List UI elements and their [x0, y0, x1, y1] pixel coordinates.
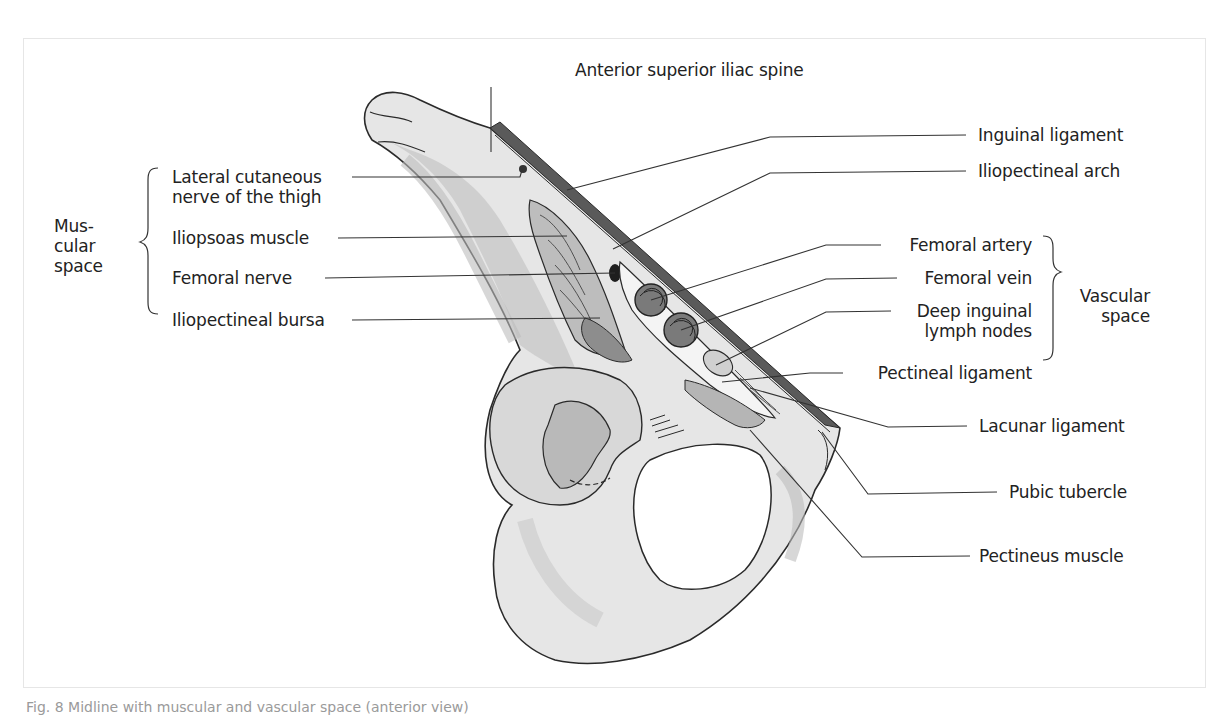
label-pectineus-muscle: Pectineus muscle [979, 546, 1124, 566]
label-deep-inguinal-lymph-nodes: Deep inguinal lymph nodes [917, 301, 1032, 341]
label-femoral-nerve: Femoral nerve [172, 268, 292, 288]
label-iliopsoas-muscle: Iliopsoas muscle [172, 228, 309, 248]
label-pectineal-ligament: Pectineal ligament [878, 363, 1032, 383]
muscular-space-label: Mus- cular space [54, 216, 103, 276]
label-femoral-artery: Femoral artery [909, 235, 1032, 255]
vascular-space-bracket [1043, 236, 1061, 360]
label-femoral-vein: Femoral vein [925, 268, 1032, 288]
muscular-space-bracket [140, 168, 158, 314]
label-inguinal-ligament: Inguinal ligament [978, 125, 1123, 145]
label-anterior-superior-iliac-spine: Anterior superior iliac spine [575, 60, 804, 80]
label-iliopectineal-arch: Iliopectineal arch [978, 161, 1120, 181]
label-pubic-tubercle: Pubic tubercle [1009, 482, 1127, 502]
label-iliopectineal-bursa: Iliopectineal bursa [172, 310, 325, 330]
figure-caption: Fig. 8 Midline with muscular and vascula… [26, 699, 469, 715]
label-lateral-cutaneous-nerve: Lateral cutaneous nerve of the thigh [172, 167, 322, 207]
label-lacunar-ligament: Lacunar ligament [979, 416, 1125, 436]
vascular-space-label: Vascular space [1080, 286, 1150, 326]
